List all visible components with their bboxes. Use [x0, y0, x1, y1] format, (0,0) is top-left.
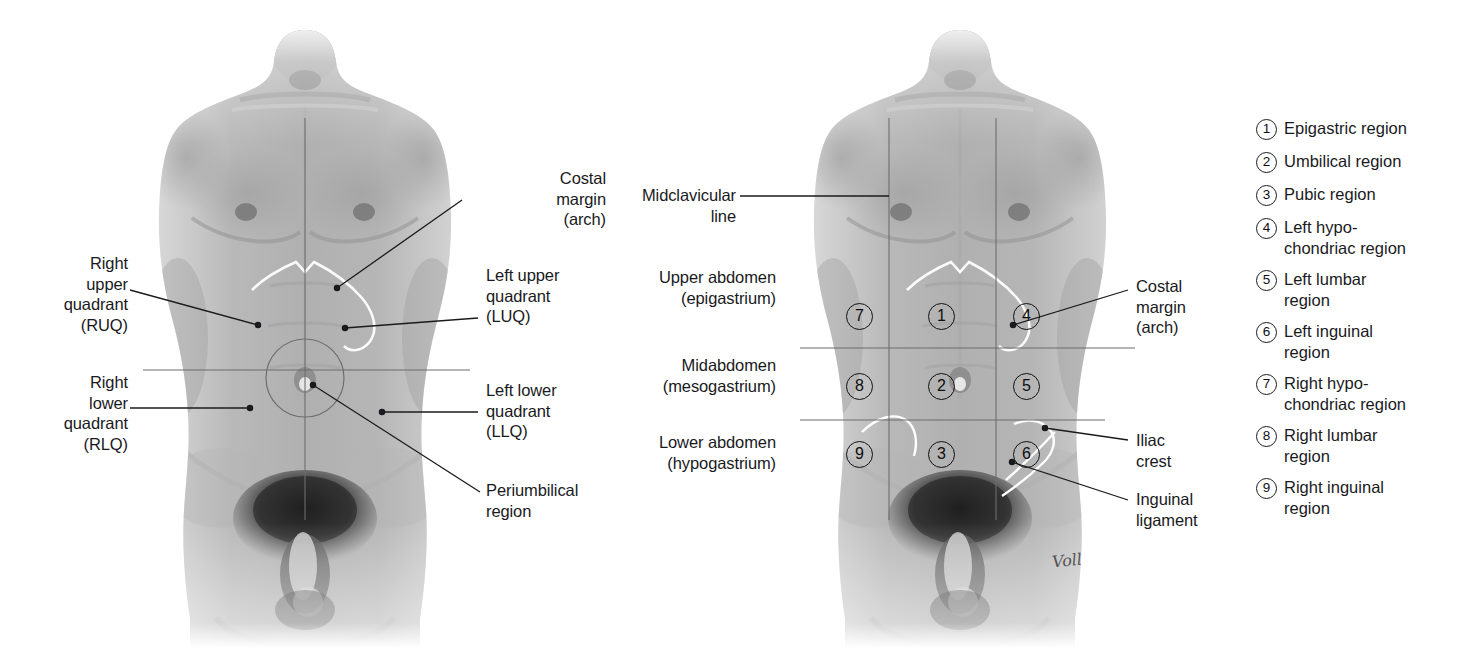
region-number-8: 8	[846, 373, 873, 400]
label-right-lower-quadrant: Right lower quadrant (RLQ)	[0, 372, 128, 454]
legend-number-4: 4	[1256, 218, 1277, 239]
label-midclavicular-line: Midclavicular line	[600, 185, 736, 226]
legend-number-5: 5	[1256, 270, 1277, 291]
legend-label-3: Pubic region	[1284, 184, 1468, 205]
legend-item-3: 3 Pubic region	[1256, 184, 1468, 206]
region-number-1: 1	[928, 303, 955, 330]
label-right-upper-quadrant: Right upper quadrant (RUQ)	[0, 253, 128, 335]
legend-item-8: 8 Right lumbar region	[1256, 425, 1468, 466]
region-number-5: 5	[1013, 373, 1040, 400]
legend-item-7: 7 Right hypo- chondriac region	[1256, 373, 1468, 414]
region-number-3: 3	[928, 441, 955, 468]
label-upper-abdomen: Upper abdomen (epigastrium)	[596, 267, 776, 308]
region-number-2: 2	[928, 373, 955, 400]
region-number-9: 9	[846, 441, 873, 468]
label-lower-abdomen: Lower abdomen (hypogastrium)	[596, 432, 776, 473]
legend-item-5: 5 Left lumbar region	[1256, 269, 1468, 310]
legend-label-1: Epigastric region	[1284, 118, 1468, 139]
label-costal-margin-right-figure: Costal margin (arch)	[1136, 276, 1256, 338]
region-number-6: 6	[1013, 441, 1040, 468]
left-torso-illustration	[120, 18, 490, 648]
left-torso-svg	[120, 18, 490, 648]
legend-number-6: 6	[1256, 322, 1277, 343]
right-torso-svg	[775, 18, 1145, 648]
legend-item-9: 9 Right inguinal region	[1256, 477, 1468, 518]
diagram-canvas: Right upper quadrant (RUQ) Right lower q…	[0, 0, 1468, 660]
right-torso-illustration	[775, 18, 1145, 648]
legend-label-5: Left lumbar region	[1284, 269, 1468, 310]
region-number-4: 4	[1013, 303, 1040, 330]
label-inguinal-ligament: Inguinal ligament	[1136, 489, 1256, 530]
label-midabdomen: Midabdomen (mesogastrium)	[596, 355, 776, 396]
region-legend: 1 Epigastric region 2 Umbilical region 3…	[1256, 118, 1468, 529]
legend-item-4: 4 Left hypo- chondriac region	[1256, 217, 1468, 258]
legend-item-1: 1 Epigastric region	[1256, 118, 1468, 140]
legend-label-8: Right lumbar region	[1284, 425, 1468, 466]
legend-number-3: 3	[1256, 185, 1277, 206]
label-iliac-crest: Iliac crest	[1136, 430, 1246, 471]
legend-number-2: 2	[1256, 152, 1277, 173]
region-number-7: 7	[846, 303, 873, 330]
legend-label-9: Right inguinal region	[1284, 477, 1468, 518]
label-periumbilical-region: Periumbilical region	[486, 480, 656, 521]
legend-label-6: Left inguinal region	[1284, 321, 1468, 362]
legend-item-2: 2 Umbilical region	[1256, 151, 1468, 173]
legend-label-4: Left hypo- chondriac region	[1284, 217, 1468, 258]
legend-item-6: 6 Left inguinal region	[1256, 321, 1468, 362]
label-costal-margin-left-figure: Costal margin (arch)	[466, 168, 606, 230]
legend-label-2: Umbilical region	[1284, 151, 1468, 172]
artist-signature: Voll	[1051, 549, 1083, 571]
legend-label-7: Right hypo- chondriac region	[1284, 373, 1468, 414]
legend-number-1: 1	[1256, 119, 1277, 140]
legend-number-9: 9	[1256, 478, 1277, 499]
legend-number-7: 7	[1256, 374, 1277, 395]
legend-number-8: 8	[1256, 426, 1277, 447]
